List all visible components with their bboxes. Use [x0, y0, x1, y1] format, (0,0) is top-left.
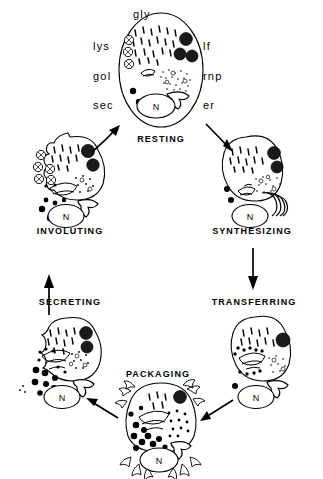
- nucleus-label: N: [59, 393, 66, 403]
- lipofuscin-granules: [276, 333, 290, 347]
- cell-transferring: N: [231, 316, 291, 408]
- stage-label-resting: RESTING: [111, 134, 211, 144]
- nucleus-label: N: [153, 102, 160, 112]
- lysosomes: [123, 35, 133, 68]
- secretory-granules: [232, 383, 238, 389]
- arrow-packaging-to-secreting: [86, 398, 118, 418]
- nucleus: N: [140, 448, 178, 472]
- stage-label-involuting: INVOLUTING: [20, 226, 120, 236]
- label-lf: lf: [203, 40, 211, 52]
- arrow-transferring-to-packaging: [200, 400, 233, 421]
- lipofuscin-granules: [174, 391, 187, 404]
- arrow-secreting-to-involuting: [44, 274, 54, 315]
- nucleus: N: [137, 94, 175, 118]
- nucleus: N: [238, 386, 274, 409]
- arrow-synthesizing-to-transferring: [248, 248, 258, 290]
- stage-label-transferring: TRANSFERRING: [194, 297, 314, 307]
- nucleus: N: [48, 205, 84, 228]
- stage-label-synthesizing: SYNTHESIZING: [192, 226, 312, 236]
- exocytosis-release: [19, 385, 26, 393]
- cell-involuting: N: [33, 133, 104, 228]
- label-er: er: [203, 99, 215, 111]
- nucleus-label: N: [63, 212, 70, 222]
- cell-secreting: N: [19, 318, 101, 409]
- nucleus: N: [44, 386, 80, 409]
- cell-synthesizing: N: [222, 136, 287, 228]
- nucleus-label: N: [247, 212, 254, 222]
- nucleus-label: N: [156, 456, 163, 466]
- nucleus: N: [232, 205, 268, 228]
- label-gol: gol: [93, 70, 111, 82]
- stage-label-secreting: SECRETING: [20, 297, 120, 307]
- label-rnp: rnp: [203, 70, 223, 82]
- label-gly: gly: [133, 8, 151, 20]
- cell-resting: N: [119, 13, 203, 127]
- cell-packaging: N: [115, 380, 205, 479]
- nucleus-label: N: [253, 393, 260, 403]
- label-sec: sec: [93, 99, 114, 111]
- cell-cycle-diagram: N: [0, 0, 323, 479]
- label-lys: lys: [93, 40, 110, 52]
- stage-label-packaging: PACKAGING: [108, 369, 208, 379]
